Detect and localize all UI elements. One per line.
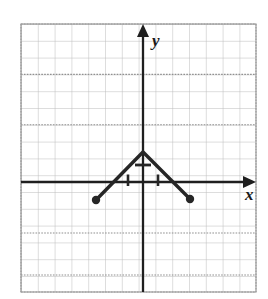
coordinate-plot-svg: x y [0,0,268,299]
x-axis-label: x [244,185,254,204]
right-endpoint-dot [186,195,194,203]
y-axis-label: y [150,31,160,50]
left-endpoint-dot [92,196,100,204]
coordinate-plane-figure: x y [0,0,268,299]
